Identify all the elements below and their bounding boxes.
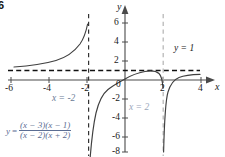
y-axis-arrow xyxy=(122,5,129,14)
equation-equals: = xyxy=(12,126,17,136)
y-tick-label--6: -6 xyxy=(112,132,120,142)
x-tick-label-4: 4 xyxy=(198,84,203,94)
x-tick-label--6: -6 xyxy=(5,84,13,94)
y-tick-label-4: 4 xyxy=(114,37,119,47)
curve-middle-branch xyxy=(90,71,163,157)
equation-numerator: (x − 3)(x − 1) xyxy=(19,121,71,130)
y-tick-label-0: 0 xyxy=(116,80,121,90)
y-tick-label--8: -8 xyxy=(112,147,120,157)
x-tick-label--2: -2 xyxy=(81,84,89,94)
equation-fraction: (x − 3)(x − 1) (x − 2)(x + 2) xyxy=(19,121,71,141)
vertical-asymptote-right-label: x = 2 xyxy=(129,103,149,113)
y-tick-label-2: 2 xyxy=(114,56,119,66)
x-axis-label: x xyxy=(215,82,219,92)
x-axis xyxy=(8,77,215,84)
x-tick-label-2: 2 xyxy=(160,84,165,94)
y-tick-label--4: -4 xyxy=(112,113,120,123)
y-tick-label--2: -2 xyxy=(112,94,120,104)
function-equation: y = (x − 3)(x − 1) (x − 2)(x + 2) xyxy=(6,121,71,141)
equation-lhs: y xyxy=(6,126,10,136)
horizontal-asymptote-label: y = 1 xyxy=(174,44,194,54)
curve-right-branch xyxy=(164,74,200,152)
y-axis-label: y xyxy=(117,2,121,12)
x-axis-arrow xyxy=(206,77,215,84)
vertical-asymptote-left-label: x = -2 xyxy=(52,94,75,104)
curve-left-branch xyxy=(14,24,88,67)
y-tick-label-6: 6 xyxy=(114,18,119,28)
equation-denominator: (x − 2)(x + 2) xyxy=(19,130,71,140)
x-tick-label--4: -4 xyxy=(43,84,51,94)
